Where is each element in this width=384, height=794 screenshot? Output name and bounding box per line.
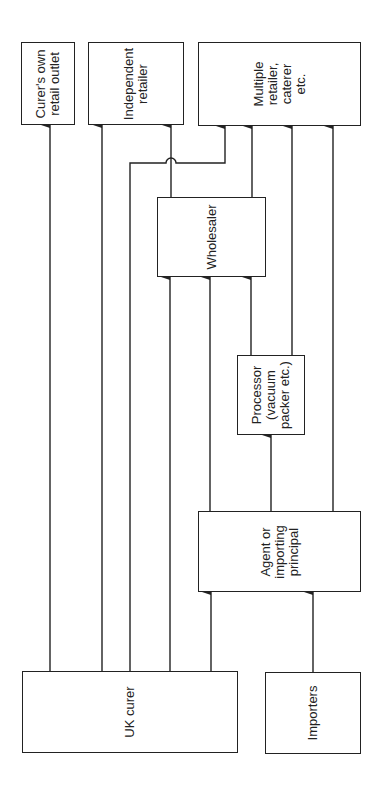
node-label: Processor (vacuum packer etc.) [250,361,292,429]
node-independent-retailer: Independent retailer [88,42,184,125]
node-curers-own-retail-outlet: Curer's own retail outlet [21,42,75,125]
node-label: Agent or importing principal [259,525,301,578]
node-label: Wholesaler [205,204,219,269]
node-agent-importing-principal: Agent or importing principal [198,511,361,592]
node-importers: Importers [265,672,361,754]
node-label: Multiple retailer, caterer etc. [252,62,308,107]
node-label: UK curer [123,686,137,737]
node-multiple-retailer: Multiple retailer, caterer etc. [198,42,361,126]
node-label: Curer's own retail outlet [34,49,62,118]
node-processor: Processor (vacuum packer etc.) [237,355,305,435]
node-label: Independent retailer [122,47,150,119]
node-wholesaler: Wholesaler [157,197,266,277]
node-uk-curer: UK curer [22,671,238,753]
node-label: Importers [306,686,320,741]
